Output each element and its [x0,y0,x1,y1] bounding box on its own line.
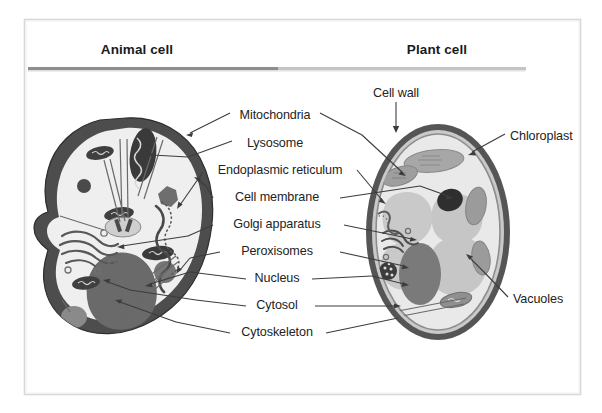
header-plant-cell: Plant cell [407,42,467,57]
label-cell-wall: Cell wall [373,86,419,100]
label-mitochondria: Mitochondria [240,108,311,122]
label-cytoskeleton: Cytoskeleton [241,325,313,339]
figure-canvas [0,0,602,413]
title-divider [28,67,526,72]
label-vacuoles: Vacuoles [513,292,563,306]
label-cell-membrane: Cell membrane [235,190,319,204]
label-lysosome: Lysosome [247,136,303,150]
label-golgi-apparatus: Golgi apparatus [233,217,320,231]
header-animal-cell: Animal cell [101,42,173,57]
label-endoplasmic-reticulum: Endoplasmic reticulum [218,163,343,177]
label-cytosol: Cytosol [256,298,297,312]
label-nucleus: Nucleus [255,271,300,285]
label-chloroplast: Chloroplast [510,129,573,143]
plant-cell-drawing [366,124,510,340]
label-peroxisomes: Peroxisomes [241,244,313,258]
